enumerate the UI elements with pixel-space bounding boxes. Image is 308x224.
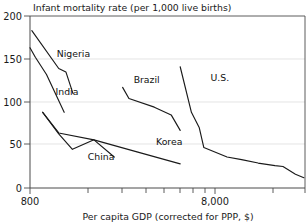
y-tick-label-100: 100	[3, 97, 22, 108]
y-tick-label-50: 50	[10, 139, 22, 150]
series-label-us: U.S.	[211, 72, 230, 83]
series-label-india: India	[56, 86, 79, 97]
x-tick-label-8000: 8,000	[201, 196, 229, 207]
infant-mortality-chart: 0 50 100 150 200 800 8,000 Infant mortal…	[0, 0, 308, 224]
y-tick-label-150: 150	[3, 54, 22, 65]
x-tick-label-800: 800	[21, 196, 40, 207]
y-tick-label-0: 0	[16, 183, 22, 194]
series-label-nigeria: Nigeria	[57, 48, 90, 59]
x-axis-title: Per capita GDP (corrected for PPP, $)	[82, 211, 253, 222]
x-axis-tick-marks	[30, 188, 305, 194]
series-label-brazil: Brazil	[134, 74, 160, 85]
chart-title: Infant mortality rate (per 1,000 live bi…	[33, 2, 231, 13]
y-tick-label-200: 200	[3, 11, 22, 22]
y-axis-tick-marks	[24, 16, 30, 188]
series-label-china: China	[88, 151, 115, 162]
series-label-korea: Korea	[156, 136, 182, 147]
